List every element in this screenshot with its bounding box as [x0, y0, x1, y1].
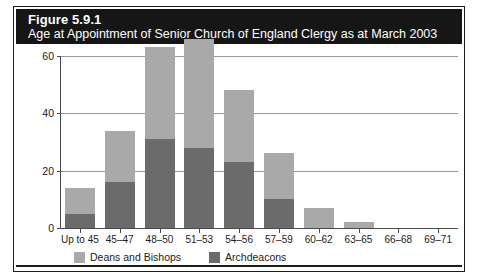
legend-item: Archdeacons: [209, 251, 286, 263]
x-tick-mark: [398, 229, 399, 233]
bar-segment-deans-and-bishops: [304, 208, 334, 228]
x-axis-label: 60–62: [299, 234, 339, 245]
x-axis-label: 48–50: [140, 234, 180, 245]
bar-segment-archdeacons: [65, 214, 95, 228]
x-tick-mark: [319, 229, 320, 233]
x-tick-mark: [239, 229, 240, 233]
bar-group: [224, 90, 254, 228]
bar-segment-deans-and-bishops: [344, 222, 374, 228]
chart-legend: Deans and BishopsArchdeacons: [74, 251, 308, 263]
figure-title: Figure 5.9.1: [28, 12, 462, 27]
bar-group: [264, 153, 294, 228]
x-axis-label: 63–65: [339, 234, 379, 245]
x-axis-label: Up to 45: [60, 234, 100, 245]
x-tick-mark: [359, 229, 360, 233]
legend-item: Deans and Bishops: [74, 251, 181, 263]
bar-segment-archdeacons: [145, 139, 175, 228]
y-tick-label: 20: [16, 165, 54, 177]
x-axis-label: 69–71: [418, 234, 458, 245]
bar-segment-deans-and-bishops: [264, 153, 294, 199]
x-tick-mark: [438, 229, 439, 233]
bar-group: [105, 131, 135, 228]
x-tick-mark: [279, 229, 280, 233]
bar-segment-deans-and-bishops: [224, 90, 254, 162]
x-axis-label: 57–59: [259, 234, 299, 245]
x-axis-label: 51–53: [179, 234, 219, 245]
chart-panel: 0204060 Up to 4545–4748–5051–5354–5657–5…: [16, 44, 462, 269]
y-tick-label: 40: [16, 107, 54, 119]
x-tick-mark: [120, 229, 121, 233]
bar-segment-archdeacons: [224, 162, 254, 228]
bar-segment-deans-and-bishops: [105, 131, 135, 183]
bar-group: [344, 222, 374, 228]
y-tick-label: 60: [16, 50, 54, 62]
bottom-rule: [16, 265, 462, 267]
figure-subtitle: Age at Appointment of Senior Church of E…: [28, 27, 462, 42]
x-axis-label: 45–47: [100, 234, 140, 245]
bar-segment-archdeacons: [105, 182, 135, 228]
legend-swatch-icon: [74, 252, 85, 263]
legend-swatch-icon: [209, 252, 220, 263]
x-axis-label: 66–68: [378, 234, 418, 245]
bar-segment-deans-and-bishops: [145, 47, 175, 139]
bar-segment-deans-and-bishops: [184, 39, 214, 148]
bar-group: [184, 39, 214, 228]
bar-group: [145, 47, 175, 228]
y-tick-label: 0: [16, 222, 54, 234]
figure-header: Figure 5.9.1 Age at Appointment of Senio…: [16, 9, 462, 44]
x-tick-mark: [199, 229, 200, 233]
bar-segment-archdeacons: [264, 199, 294, 228]
bar-segment-archdeacons: [184, 148, 214, 228]
figure-root: Figure 5.9.1 Age at Appointment of Senio…: [0, 0, 480, 280]
x-tick-mark: [80, 229, 81, 233]
legend-label: Deans and Bishops: [90, 251, 181, 263]
bar-group: [65, 188, 95, 228]
bar-group: [304, 208, 334, 228]
bar-segment-deans-and-bishops: [65, 188, 95, 214]
bars-layer: [60, 44, 458, 229]
legend-label: Archdeacons: [225, 251, 286, 263]
x-tick-mark: [160, 229, 161, 233]
x-axis-label: 54–56: [219, 234, 259, 245]
